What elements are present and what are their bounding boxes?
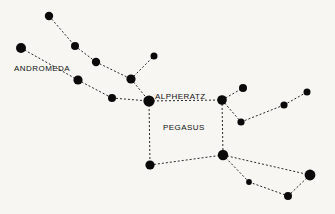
constellation-line — [249, 182, 288, 196]
star-point — [218, 150, 228, 160]
star-point — [143, 95, 154, 106]
constellation-line — [49, 16, 75, 46]
star-point — [239, 84, 247, 92]
star-point — [305, 170, 316, 181]
star-point — [304, 89, 311, 96]
constellation-line — [223, 155, 310, 175]
constellation-line — [223, 155, 249, 182]
star-point — [151, 53, 158, 60]
constellation-line — [78, 80, 112, 98]
stars-group — [16, 12, 315, 200]
star-point — [45, 12, 53, 20]
constellation-line — [131, 56, 154, 79]
star-point — [126, 74, 135, 83]
constellation-line — [284, 92, 307, 105]
constellation-line — [222, 100, 223, 155]
constellation-line — [149, 101, 150, 165]
star-point — [16, 43, 26, 53]
label-andromeda: ANDROMEDA — [14, 64, 70, 73]
star-point — [108, 94, 116, 102]
constellation-diagram: ANDROMEDAALPHERATZPEGASUS — [0, 0, 335, 214]
star-chart: ANDROMEDAALPHERATZPEGASUS — [0, 0, 335, 214]
star-point — [280, 101, 287, 108]
star-point — [145, 160, 154, 169]
star-point — [246, 179, 252, 185]
star-point — [217, 95, 227, 105]
label-pegasus: PEGASUS — [163, 123, 205, 132]
star-point — [237, 118, 244, 125]
star-point — [73, 75, 82, 84]
star-point — [92, 58, 100, 66]
constellation-line — [241, 105, 284, 122]
constellation-lines-group — [21, 16, 310, 196]
label-alpheratz: ALPHERATZ — [155, 92, 206, 101]
constellation-line — [150, 155, 223, 165]
constellation-line — [96, 62, 131, 79]
star-point — [71, 42, 79, 50]
star-point — [284, 192, 292, 200]
